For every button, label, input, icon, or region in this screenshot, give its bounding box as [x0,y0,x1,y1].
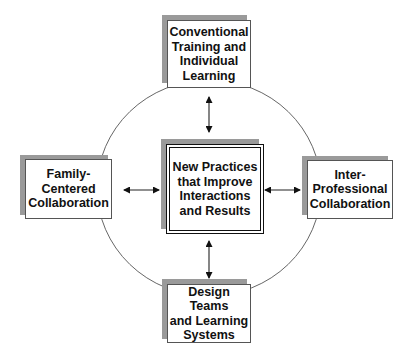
diagram-canvas: Conventional Training and Individual Lea… [0,0,413,361]
node-box: Family- Centered Collaboration [25,159,112,219]
node-label: New Practices that Improve Interactions … [173,160,258,218]
node-box-center: New Practices that Improve Interactions … [166,144,264,234]
node-label: Family- Centered Collaboration [28,167,109,211]
node-box: Inter- Professional Collaboration [307,160,393,219]
node-box: Conventional Training and Individual Lea… [167,20,251,88]
node-label: Design Teams and Learning Systems [168,285,250,343]
node-box: Design Teams and Learning Systems [167,284,251,343]
node-label: Inter- Professional Collaboration [310,168,391,212]
node-label: Conventional Training and Individual Lea… [169,25,248,83]
